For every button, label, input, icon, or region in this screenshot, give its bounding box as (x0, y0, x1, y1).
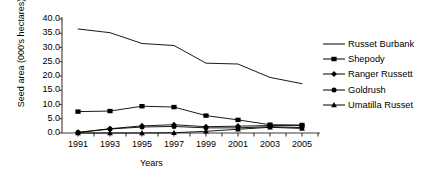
x-tick-label: 2005 (282, 139, 322, 149)
legend-label: Goldrush (346, 85, 386, 95)
legend-item: Russet Burbank (322, 36, 435, 51)
legend-marker-none-icon (322, 37, 346, 51)
legend-marker-triangle-icon (322, 98, 346, 112)
legend-marker-circle-icon (322, 83, 346, 97)
legend-label: Umatilla Russet (346, 100, 413, 110)
legend-item: Shepody (322, 51, 435, 66)
chart-legend: Russet BurbankShepodyRanger RussettGoldr… (322, 36, 435, 113)
legend-label: Ranger Russett (346, 69, 413, 79)
legend-item: Ranger Russett (322, 67, 435, 82)
seed-area-line-chart: Seed area (000's hectares) 0.05.010.015.… (0, 0, 435, 179)
x-axis-title: Years (140, 158, 163, 168)
legend-label: Shepody (346, 54, 385, 64)
legend-marker-diamond-icon (322, 67, 346, 81)
legend-label: Russet Burbank (346, 39, 414, 49)
legend-item: Umatilla Russet (322, 98, 435, 113)
legend-marker-square-icon (322, 52, 346, 66)
legend-item: Goldrush (322, 82, 435, 97)
